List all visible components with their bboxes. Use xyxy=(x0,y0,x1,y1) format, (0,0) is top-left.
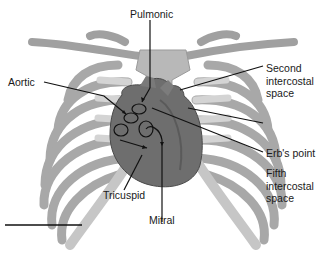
label-pulmonic: Pulmonic xyxy=(130,8,173,21)
label-tricuspid: Tricuspid xyxy=(103,189,145,202)
label-second-intercostal-space: Second intercostal space xyxy=(266,62,314,100)
label-aortic: Aortic xyxy=(8,76,35,89)
label-mitral: Mitral xyxy=(149,214,175,227)
heart xyxy=(110,76,202,187)
label-erbs-point: Erb's point xyxy=(266,147,315,160)
label-fifth-intercostal-space: Fifth intercostal space xyxy=(266,167,314,205)
